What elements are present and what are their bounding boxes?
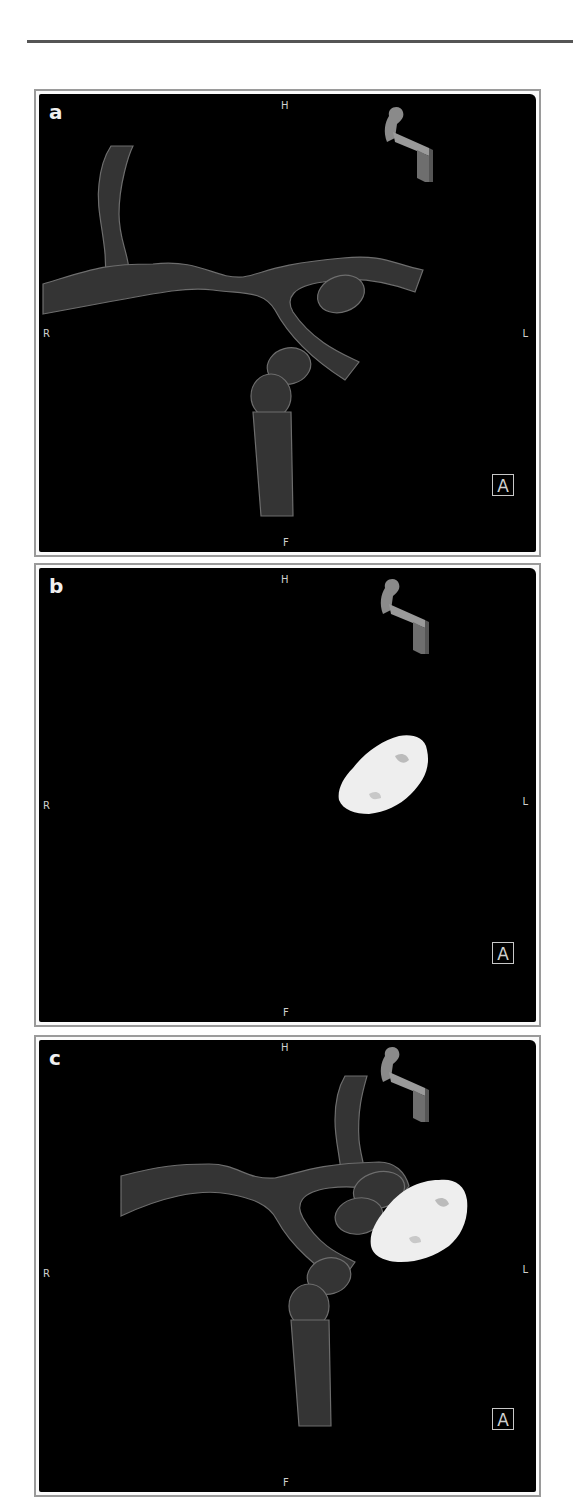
combined-render bbox=[39, 1040, 536, 1492]
panel-a-viewport: a H F R L A bbox=[39, 94, 536, 552]
vessel-mesh-render bbox=[39, 94, 536, 552]
panel-c-viewport: c H F R L A bbox=[39, 1040, 536, 1492]
panel-b-viewport: b H F R L A bbox=[39, 568, 536, 1022]
top-rule bbox=[27, 40, 573, 43]
panel-a: a H F R L A bbox=[34, 89, 541, 557]
panel-c: c H F R L A bbox=[34, 1035, 541, 1497]
panel-b: b H F R L A bbox=[34, 563, 541, 1027]
mass-render bbox=[39, 568, 536, 1022]
